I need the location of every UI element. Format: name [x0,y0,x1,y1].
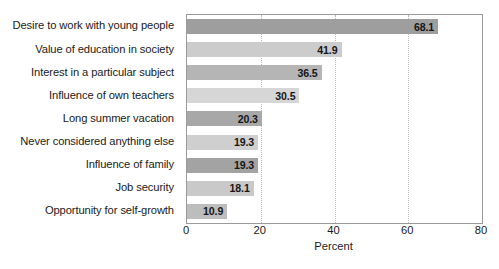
category-label: Never considered anything else [0,130,180,153]
bar: 68.1 [187,19,438,34]
category-label: Influence of own teachers [0,83,180,106]
bar: 30.5 [187,88,299,103]
category-label: Influence of family [0,153,180,176]
x-tick-label: 20 [254,224,266,236]
category-label: Long summer vacation [0,106,180,129]
bar-row: 68.1 [187,15,482,38]
bar-value-label: 30.5 [275,90,299,102]
bar: 36.5 [187,65,322,80]
bar-value-label: 18.1 [230,182,254,194]
bar-value-label: 68.1 [414,21,438,33]
bar-row: 30.5 [187,84,482,107]
category-label: Value of education in society [0,37,180,60]
bar: 20.3 [187,111,262,126]
category-axis: Desire to work with young peopleValue of… [0,14,180,222]
bar-row: 19.3 [187,154,482,177]
bar-value-label: 19.3 [234,159,258,171]
bar-row: 20.3 [187,107,482,130]
bar-row: 19.3 [187,131,482,154]
category-label: Opportunity for self-growth [0,199,180,222]
bar-value-label: 36.5 [297,67,321,79]
x-tick-label: 0 [183,224,189,236]
bar-value-label: 10.9 [203,205,227,217]
bar: 10.9 [187,204,227,219]
bar-row: 36.5 [187,61,482,84]
bar-chart: Desire to work with young peopleValue of… [0,0,499,269]
bar-row: 18.1 [187,177,482,200]
category-label: Job security [0,176,180,199]
bar-value-label: 41.9 [317,44,341,56]
bar-row: 10.9 [187,200,482,223]
x-tick-label: 80 [475,224,487,236]
x-axis-ticks: 020406080 [186,224,481,240]
bar: 19.3 [187,135,258,150]
category-label: Desire to work with young people [0,14,180,37]
x-axis-title: Percent [186,240,481,252]
bar-series: 68.141.936.530.520.319.319.318.110.9 [187,15,482,223]
category-label: Interest in a particular subject [0,60,180,83]
plot-area: 68.141.936.530.520.319.319.318.110.9 [186,14,483,224]
bar: 19.3 [187,158,258,173]
bar: 18.1 [187,181,254,196]
bar-value-label: 19.3 [234,136,258,148]
bar: 41.9 [187,42,342,57]
bar-row: 41.9 [187,38,482,61]
x-tick-label: 60 [401,224,413,236]
x-tick-label: 40 [327,224,339,236]
bar-value-label: 20.3 [238,113,262,125]
